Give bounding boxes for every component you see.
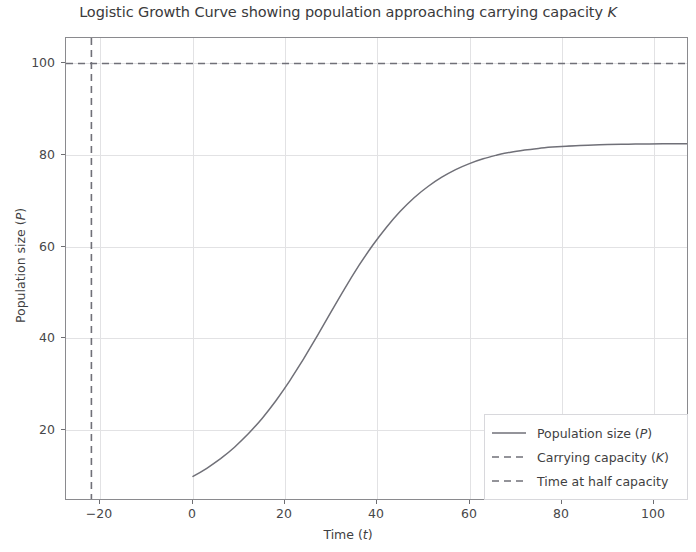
legend-label-carrying-capacity-text: Carrying capacity ( xyxy=(537,450,656,465)
y-axis-label: Population size (P) xyxy=(13,166,28,366)
xtick-mark-1 xyxy=(192,500,193,504)
xtick-mark-6 xyxy=(653,500,654,504)
xtick-mark-4 xyxy=(469,500,470,504)
xtick-label-60: 60 xyxy=(447,506,491,521)
xtick-mark-5 xyxy=(561,500,562,504)
xtick-label-20: 20 xyxy=(262,506,306,521)
ytick-mark-40 xyxy=(61,337,65,338)
logistic-growth-chart-figure: Logistic Growth Curve showing population… xyxy=(0,0,696,552)
ytick-mark-100 xyxy=(61,62,65,63)
legend-item-population-size[interactable]: Population size (P) xyxy=(491,421,679,445)
ytick-mark-60 xyxy=(61,246,65,247)
xtick-label-minus20: −20 xyxy=(77,506,121,521)
xtick-label-0: 0 xyxy=(170,506,214,521)
chart-legend: Population size (P) Carrying capacity (K… xyxy=(484,414,688,500)
legend-line-sample-solid-icon xyxy=(491,427,527,439)
ytick-label-20: 20 xyxy=(7,422,55,437)
legend-item-carrying-capacity[interactable]: Carrying capacity (K) xyxy=(491,445,679,469)
chart-title: Logistic Growth Curve showing population… xyxy=(0,4,696,20)
x-axis-label: Time (t) xyxy=(0,527,696,542)
chart-title-symbol-k: K xyxy=(607,4,616,20)
legend-label-carrying-capacity-close: ) xyxy=(664,450,669,465)
y-axis-label-symbol-p: P xyxy=(13,213,28,221)
legend-label-population-size: Population size (P) xyxy=(537,426,652,441)
legend-line-sample-dashed-t-icon xyxy=(491,475,527,487)
ytick-mark-20 xyxy=(61,429,65,430)
x-axis-label-text: Time ( xyxy=(323,527,362,542)
legend-line-sample-dashed-k-icon xyxy=(491,451,527,463)
ytick-mark-80 xyxy=(61,154,65,155)
ytick-label-80: 80 xyxy=(7,147,55,162)
xtick-label-40: 40 xyxy=(354,506,398,521)
y-axis-label-text: Population size ( xyxy=(13,220,28,323)
legend-label-half-capacity-time: Time at half capacity xyxy=(537,474,668,489)
legend-label-carrying-capacity: Carrying capacity (K) xyxy=(537,450,669,465)
ytick-label-100: 100 xyxy=(7,55,55,70)
xtick-label-100: 100 xyxy=(631,506,675,521)
x-axis-label-close: ) xyxy=(368,527,373,542)
xtick-label-80: 80 xyxy=(539,506,583,521)
legend-label-population-size-text: Population size ( xyxy=(537,426,640,441)
xtick-mark-3 xyxy=(376,500,377,504)
legend-label-population-size-close: ) xyxy=(647,426,652,441)
xtick-mark-0 xyxy=(99,500,100,504)
y-axis-label-close: ) xyxy=(13,208,28,213)
legend-label-symbol-k: K xyxy=(656,450,664,465)
chart-title-text: Logistic Growth Curve showing population… xyxy=(79,4,607,20)
xtick-mark-2 xyxy=(284,500,285,504)
legend-item-half-capacity-time[interactable]: Time at half capacity xyxy=(491,469,679,493)
